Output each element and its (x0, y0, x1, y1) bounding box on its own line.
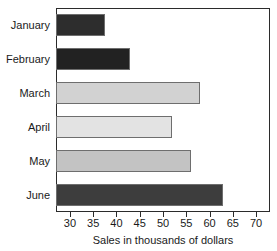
tick-label-35: 35 (87, 217, 99, 229)
bar-chart-figure: JanuaryFebruaryMarchAprilMayJune 3035404… (0, 0, 277, 251)
category-axis-labels: JanuaryFebruaryMarchAprilMayJune (0, 8, 53, 212)
bar-march (56, 82, 200, 104)
category-label-february: February (0, 53, 50, 65)
category-label-april: April (0, 121, 50, 133)
x-axis-tick-labels: 303540455055606570 (56, 217, 270, 233)
bar-may (56, 150, 191, 172)
bar-february (56, 48, 130, 70)
tick-label-55: 55 (180, 217, 192, 229)
category-label-may: May (0, 155, 50, 167)
bar-april (56, 116, 172, 138)
bars-layer (56, 8, 270, 212)
tick-label-60: 60 (203, 217, 215, 229)
tick-label-65: 65 (227, 217, 239, 229)
bar-january (56, 14, 105, 36)
category-label-march: March (0, 87, 50, 99)
category-label-june: June (0, 189, 50, 201)
category-label-january: January (0, 19, 50, 31)
tick-label-45: 45 (134, 217, 146, 229)
x-axis-title: Sales in thousands of dollars (56, 234, 270, 246)
tick-label-40: 40 (110, 217, 122, 229)
tick-label-30: 30 (64, 217, 76, 229)
tick-label-70: 70 (250, 217, 262, 229)
tick-label-50: 50 (157, 217, 169, 229)
bar-june (56, 184, 223, 206)
